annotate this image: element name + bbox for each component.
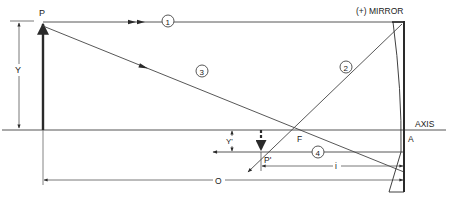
focal-point-label: F (297, 134, 302, 144)
axis-label: AXIS (415, 119, 435, 129)
object-point-label: P (39, 8, 45, 18)
ray-4-number: 4 (316, 149, 321, 158)
ray-3 (43, 26, 404, 172)
vertex-label: A (408, 134, 414, 144)
image-distance-label: i (335, 161, 337, 171)
ray-1-number: 1 (166, 18, 171, 27)
ray-2-number: 2 (344, 64, 349, 73)
ray-3-arrow (138, 63, 148, 68)
ray-3-number: 3 (200, 68, 205, 77)
ray-diagram: AXIS Y P 1 3 2 F 4 P' Y' i O (+) MI (0, 0, 450, 199)
object-height-label: Y (15, 65, 21, 75)
image-point-label: P' (264, 155, 272, 165)
ray-2 (248, 24, 402, 172)
ray-1-arrow (137, 20, 145, 24)
object-distance-label: O (215, 176, 222, 186)
image-height-label: Y' (226, 137, 233, 146)
mirror-label: (+) MIRROR (356, 6, 403, 16)
